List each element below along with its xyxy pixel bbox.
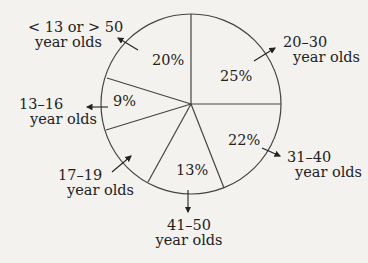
label-line: < 13 or > 50 (28, 20, 102, 35)
label-line: 20–30 (283, 35, 360, 50)
legend-label: 31–40 year olds (287, 150, 362, 180)
pct-label: 25% (220, 68, 252, 84)
label-line: year olds (152, 233, 226, 248)
legend-label: 41–50 year olds (152, 218, 226, 248)
label-line: 31–40 (287, 150, 362, 165)
label-line: 13–16 (19, 97, 97, 112)
pct-label: 13% (176, 162, 208, 178)
label-line: 41–50 (152, 218, 226, 233)
pct-label: 9% (113, 93, 136, 109)
label-line: year olds (287, 165, 362, 180)
legend-label: < 13 or > 50 year olds (28, 20, 102, 50)
pct-label: 20% (152, 52, 184, 68)
legend-label: 17–19 year olds (58, 168, 134, 198)
label-line: year olds (283, 50, 360, 65)
legend-label: 20–30 year olds (283, 35, 360, 65)
arrow-icon (254, 48, 275, 61)
label-line: year olds (58, 183, 134, 198)
pct-label: 22% (228, 132, 260, 148)
legend-label: 13–16 year olds (19, 97, 97, 127)
label-line: 17–19 (58, 168, 134, 183)
label-line: year olds (19, 112, 97, 127)
label-line: year olds (28, 35, 102, 50)
